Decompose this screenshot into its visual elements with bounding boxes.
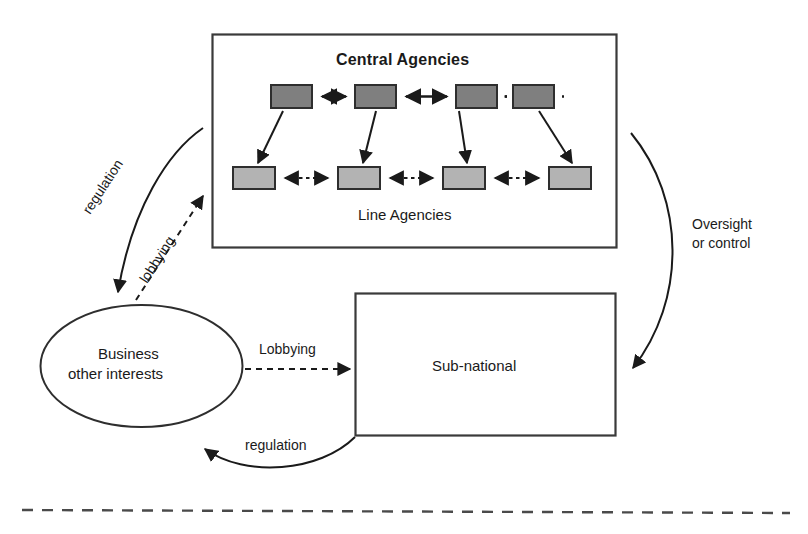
line-agency-box: [443, 167, 485, 189]
central-agencies-title: Central Agencies: [336, 50, 469, 70]
down-arrow-icon: [363, 111, 376, 163]
edge-label-oversight-line1: Oversight: [692, 215, 752, 233]
down-arrow-icon: [459, 111, 467, 163]
line-agency-box: [233, 167, 275, 189]
line-agency-box: [549, 167, 591, 189]
business-node-line1: Business: [98, 345, 159, 363]
line-agency-box: [338, 167, 380, 189]
down-arrow-icon: [258, 111, 283, 163]
central-to-line-arrows: [258, 111, 572, 163]
edge-label-regulation-bottom: regulation: [245, 437, 307, 454]
edge-label-oversight-line2: or control: [692, 234, 750, 252]
diagram-vector-layer: [0, 0, 808, 534]
central-agency-box: [513, 85, 554, 108]
subnational-node-label: Sub-national: [432, 357, 516, 375]
down-arrow-icon: [539, 111, 572, 163]
footer-dashed-divider: [22, 510, 790, 513]
diagram-canvas: Central Agencies Line Agencies Business …: [0, 0, 808, 534]
central-agency-box: [456, 85, 497, 108]
business-node-line2: other interests: [68, 365, 163, 383]
central-agency-box: [355, 85, 396, 108]
central-agency-box: [271, 85, 312, 108]
oversight-arrow: [631, 133, 673, 368]
edge-label-lobbying-right: Lobbying: [259, 341, 316, 358]
line-agencies-label: Line Agencies: [358, 206, 451, 224]
